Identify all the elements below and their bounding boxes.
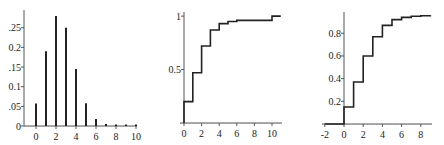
x-tick-label: 0 (34, 131, 39, 142)
pmf-bar-chart: 02468100.050.1.150.2.25 (9, 10, 142, 142)
x-tick-label: 4 (380, 129, 385, 140)
y-tick-label: .05 (9, 101, 22, 112)
cdf-step-chart-2: -2024680.20.40.60.8 (321, 12, 432, 140)
y-tick-label: 0.1 (9, 81, 22, 92)
x-tick-label: 6 (94, 131, 99, 142)
cdf-step-chart-1: 02468100.51 (169, 11, 283, 139)
figure: 02468100.050.1.150.2.25 02468100.51 -202… (0, 0, 444, 145)
y-tick-label: .15 (9, 62, 22, 73)
x-tick-label: 10 (267, 128, 277, 139)
y-tick-label: 0.8 (329, 28, 342, 39)
x-tick-label: 2 (199, 128, 204, 139)
y-tick-label: 1 (176, 11, 181, 22)
y-tick-label: 0.2 (329, 96, 342, 107)
x-tick-label: 8 (252, 128, 257, 139)
x-tick-label: 0 (182, 128, 187, 139)
x-tick-label: 2 (54, 131, 59, 142)
x-tick-label: 10 (131, 131, 141, 142)
y-tick-label: 0 (16, 121, 21, 132)
x-tick-label: 6 (234, 128, 239, 139)
y-tick-label: 0.5 (169, 64, 182, 75)
y-tick-label: 0.4 (329, 73, 342, 84)
x-tick-label: 4 (74, 131, 79, 142)
x-tick-label: 8 (114, 131, 119, 142)
y-tick-label: .25 (9, 22, 22, 33)
y-tick-label: 0.6 (329, 50, 342, 61)
x-tick-label: -2 (321, 129, 329, 140)
x-tick-label: 0 (342, 129, 347, 140)
cdf-step-line (184, 16, 281, 123)
x-tick-label: 8 (418, 129, 423, 140)
x-tick-label: 2 (361, 129, 366, 140)
x-tick-label: 4 (217, 128, 222, 139)
y-tick-label: 0.2 (9, 42, 22, 53)
x-tick-label: 6 (399, 129, 404, 140)
